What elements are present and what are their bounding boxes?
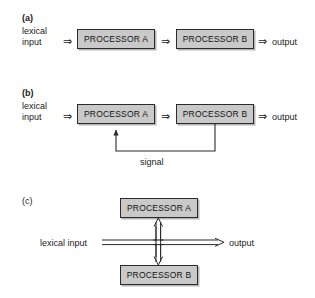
panel-c-letter: (c) (22, 196, 33, 206)
panel-a-output-label: output (272, 37, 297, 47)
panel-c-processor-b-box: PROCESSOR B (120, 265, 198, 285)
panel-b-output-label: output (272, 112, 297, 122)
panel-c-processor-a-label: PROCESSOR A (127, 203, 191, 213)
panel-a-processor-a-label: PROCESSOR A (84, 34, 148, 44)
panel-c-input-label: lexical input (40, 238, 87, 248)
panel-a-processor-a-box: PROCESSOR A (77, 29, 155, 49)
panel-b-input-label: lexical input (22, 101, 47, 123)
panel-b-processor-b-label: PROCESSOR B (183, 109, 248, 119)
panel-a-arrow-1-icon: ⇒ (63, 36, 72, 47)
panel-c-processor-a-box: PROCESSOR A (120, 198, 198, 218)
panel-b-processor-a-label: PROCESSOR A (84, 109, 148, 119)
panel-a-input-line2: input (22, 37, 47, 48)
panel-b-processor-a-box: PROCESSOR A (77, 104, 155, 124)
panel-a-arrow-2-icon: ⇒ (161, 36, 170, 47)
panel-b-feedback-path (116, 124, 215, 151)
panel-a-processor-b-box: PROCESSOR B (176, 29, 254, 49)
panel-c-horizontal-double-line (102, 238, 224, 246)
panel-c-vertical-down-double-line (154, 222, 163, 265)
panel-c-crossing-gap (153, 239, 163, 246)
panel-c-processor-b-label: PROCESSOR B (127, 270, 192, 280)
panel-a-arrow-3-icon: ⇒ (258, 36, 267, 47)
panel-b-arrow-2-icon: ⇒ (161, 111, 170, 122)
panel-a-input-line1: lexical (22, 26, 47, 37)
panel-b-arrow-1-icon: ⇒ (63, 111, 72, 122)
panel-a-input-label: lexical input (22, 26, 47, 48)
panel-b-input-line2: input (22, 112, 47, 123)
panel-b-arrow-3-icon: ⇒ (258, 111, 267, 122)
panel-b-processor-b-box: PROCESSOR B (176, 104, 254, 124)
panel-b-input-line1: lexical (22, 101, 47, 112)
panel-a-letter: (a) (22, 13, 33, 23)
connector-lines (0, 0, 315, 298)
panel-b-letter: (b) (22, 88, 34, 98)
panel-c-output-label: output (229, 238, 254, 248)
panel-b-signal-label: signal (140, 157, 164, 167)
panel-c-vertical-up-double-line (154, 218, 163, 262)
panel-a-processor-b-label: PROCESSOR B (183, 34, 248, 44)
figure-canvas: (a) lexical input ⇒ PROCESSOR A ⇒ PROCES… (0, 0, 315, 298)
